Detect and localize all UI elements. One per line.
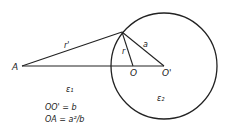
label-r-prime: r' [64, 41, 70, 50]
label-eps2: ε₂ [157, 94, 165, 103]
image-charge-diagram: A O O' r' r a ε₁ ε₂ OO' = b OA = a²/b [0, 0, 229, 135]
label-O-prime: O' [162, 68, 172, 78]
label-r: r [122, 47, 126, 56]
label-A: A [11, 62, 18, 72]
segment-r-prime [22, 32, 122, 66]
label-O: O [130, 68, 137, 78]
equation-oa: OA = a²/b [45, 115, 84, 124]
equation-oo-prime: OO' = b [45, 103, 77, 112]
label-eps1: ε₁ [66, 85, 74, 94]
segment-a [122, 32, 164, 66]
label-a: a [143, 40, 148, 49]
